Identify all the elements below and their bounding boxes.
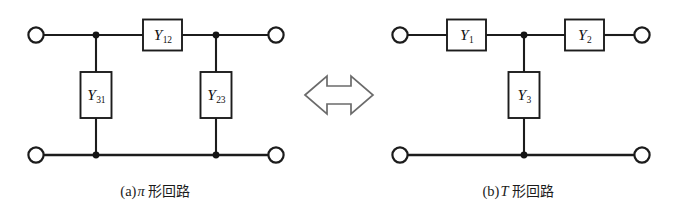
t-terminal-bottom-right[interactable] — [634, 147, 649, 162]
t-terminal-bottom-left[interactable] — [392, 147, 407, 162]
pi-caption-text: 形回路 — [146, 183, 190, 199]
pi-node-top-left — [93, 32, 100, 39]
t-series-left-element-label: Y1 — [460, 27, 473, 43]
pi-terminal-bottom-right[interactable] — [268, 147, 283, 162]
pi-circuit-caption: (a)π形回路 — [120, 180, 189, 200]
figure-root: Y12 Y31 Y23 Y1 Y2 Y3 (a)π形回路 (b)T形回路 — [0, 0, 677, 205]
equivalence-arrow-group — [305, 76, 373, 114]
pi-node-top-right — [213, 32, 220, 39]
pi-shunt-left-element-label: Y31 — [87, 87, 105, 103]
pi-terminal-bottom-left[interactable] — [28, 147, 43, 162]
t-terminal-top-left[interactable] — [392, 27, 407, 42]
pi-caption-symbol: π — [136, 183, 145, 199]
pi-caption-index: (a) — [120, 183, 136, 199]
t-node-top-center — [521, 32, 528, 39]
double-headed-arrow-icon — [305, 76, 373, 114]
t-terminal-top-right[interactable] — [634, 27, 649, 42]
pi-terminal-top-right[interactable] — [268, 27, 283, 42]
pi-terminal-top-left[interactable] — [28, 27, 43, 42]
t-caption-symbol: T — [499, 183, 509, 199]
t-series-right-element-label: Y2 — [578, 27, 591, 43]
t-node-bottom-center — [521, 152, 528, 159]
t-circuit-caption: (b)T形回路 — [483, 180, 554, 200]
pi-shunt-right-element-label: Y23 — [207, 87, 225, 103]
t-caption-index: (b) — [483, 183, 500, 199]
pi-node-bottom-right — [213, 152, 220, 159]
t-shunt-element-label: Y3 — [517, 87, 530, 103]
t-caption-text: 形回路 — [510, 183, 554, 199]
pi-node-bottom-left — [93, 152, 100, 159]
pi-series-element-label: Y12 — [154, 27, 172, 43]
